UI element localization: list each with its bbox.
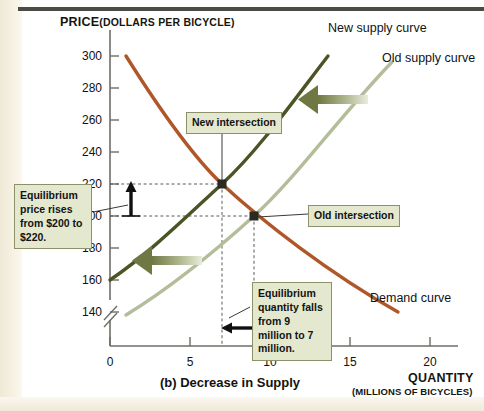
new-intersection-marker xyxy=(218,180,227,189)
supply-shift-arrow-upper-icon xyxy=(298,85,368,114)
x-axis-title: QUANTITY xyxy=(408,372,474,385)
equilibrium-quantity-callout[interactable]: Equilibrium quantity falls from 9 millio… xyxy=(252,282,332,361)
x-axis-title-word: QUANTITY xyxy=(408,371,474,385)
x-axis-units: (MILLIONS OF BICYCLES) xyxy=(352,387,472,397)
new-intersection-callout[interactable]: New intersection xyxy=(186,112,282,134)
y-axis-title: PRICE(DOLLARS PER BICYCLE) xyxy=(60,16,235,29)
y-tick-260: 260 xyxy=(62,114,102,126)
new-supply-curve-label: New supply curve xyxy=(328,22,427,35)
y-tick-280: 280 xyxy=(62,82,102,94)
y-axis-title-word: PRICE xyxy=(60,15,99,29)
y-tick-160: 160 xyxy=(62,274,102,286)
x-tick-5: 5 xyxy=(170,356,210,368)
y-tick-240: 240 xyxy=(62,146,102,158)
price-rise-arrow-icon xyxy=(122,181,140,216)
old-supply-curve-label: Old supply curve xyxy=(382,52,475,65)
equilibrium-price-callout[interactable]: Equilibrium price rises from $200 to $22… xyxy=(14,184,92,249)
old-intersection-marker xyxy=(250,212,259,221)
quantity-fall-arrow-icon xyxy=(221,320,254,336)
y-axis-units: (DOLLARS PER BICYCLE) xyxy=(99,16,234,28)
demand-curve-label: Demand curve xyxy=(370,292,451,305)
figure-caption: (b) Decrease in Supply xyxy=(140,376,320,389)
figure-page: 300 280 260 240 220 200 180 160 140 0 5 … xyxy=(0,0,484,411)
y-tick-140: 140 xyxy=(62,306,102,318)
x-tick-0: 0 xyxy=(90,356,130,368)
x-tick-20: 20 xyxy=(410,356,450,368)
y-tick-300: 300 xyxy=(62,50,102,62)
x-tick-15: 15 xyxy=(330,356,370,368)
old-intersection-callout[interactable]: Old intersection xyxy=(308,205,400,227)
